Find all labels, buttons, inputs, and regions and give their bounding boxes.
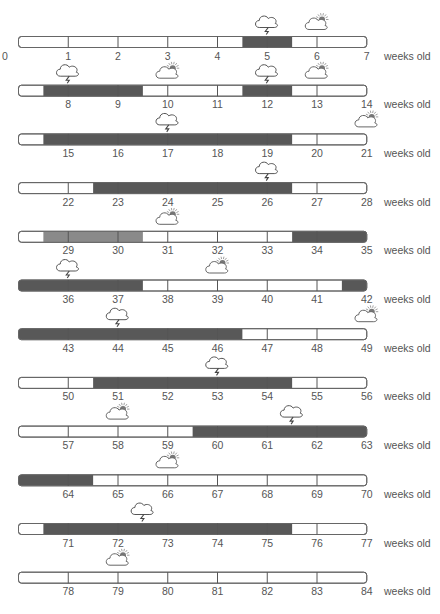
filled-segment-medium <box>43 231 143 242</box>
week-label: 8 <box>65 98 71 110</box>
week-label: 49 <box>361 342 373 354</box>
week-label: 36 <box>62 293 74 305</box>
week-label: 66 <box>162 488 174 500</box>
week-label: 12 <box>261 98 273 110</box>
week-label: 51 <box>112 390 124 402</box>
week-label: 20 <box>311 147 323 159</box>
week-label: 77 <box>361 537 373 549</box>
timeline-row: 64656667686970weeks old <box>19 451 431 499</box>
unit-label: weeks old <box>383 244 431 256</box>
week-label: 14 <box>361 98 373 110</box>
timeline-row: 78798081828384weeks old <box>19 549 431 597</box>
week-label: 67 <box>212 488 224 500</box>
week-label: 21 <box>361 147 373 159</box>
timeline-row: 15161718192021weeks old <box>19 111 431 159</box>
week-label: 1 <box>65 50 71 62</box>
storm-icon <box>57 260 79 278</box>
week-label: 13 <box>311 98 323 110</box>
week-label: 78 <box>62 585 74 597</box>
partly-cloudy-icon <box>305 62 328 78</box>
week-label: 28 <box>361 196 373 208</box>
week-label: 5 <box>264 50 270 62</box>
filled-segment-dark <box>193 426 367 437</box>
week-label: 70 <box>361 488 373 500</box>
week-label: 4 <box>215 50 221 62</box>
unit-label: weeks old <box>383 293 431 305</box>
timeline-row: 71727374757677weeks old <box>19 503 431 548</box>
week-label: 47 <box>261 342 273 354</box>
filled-segment-dark <box>19 329 243 340</box>
week-label: 48 <box>311 342 323 354</box>
storm-icon <box>280 406 302 424</box>
filled-segment-dark <box>43 85 143 96</box>
week-label: 9 <box>115 98 121 110</box>
unit-label: weeks old <box>383 147 431 159</box>
week-label: 10 <box>162 98 174 110</box>
week-label: 75 <box>261 537 273 549</box>
week-label: 33 <box>261 244 273 256</box>
week-label: 45 <box>162 342 174 354</box>
week-label: 23 <box>112 196 124 208</box>
storm-icon <box>57 65 79 83</box>
week-label: 71 <box>62 537 74 549</box>
week-label: 22 <box>62 196 74 208</box>
week-label: 26 <box>261 196 273 208</box>
week-label: 40 <box>261 293 273 305</box>
week-label: 81 <box>212 585 224 597</box>
week-label: 0 <box>2 50 8 62</box>
timeline-row: 891011121314weeks old <box>19 62 431 110</box>
week-label: 42 <box>361 293 373 305</box>
timeline-bar <box>19 37 367 48</box>
week-label: 72 <box>112 537 124 549</box>
storm-icon <box>256 162 278 180</box>
week-label: 37 <box>112 293 124 305</box>
week-label: 50 <box>62 390 74 402</box>
storm-icon <box>256 65 278 83</box>
unit-label: weeks old <box>383 50 431 62</box>
storm-icon <box>131 503 153 521</box>
week-label: 79 <box>112 585 124 597</box>
storm-icon <box>256 16 278 34</box>
timeline-row: 29303132333435weeks old <box>19 208 431 256</box>
filled-segment-dark <box>292 231 367 242</box>
week-label: 25 <box>212 196 224 208</box>
unit-label: weeks old <box>383 390 431 402</box>
week-label: 76 <box>311 537 323 549</box>
unit-label: weeks old <box>383 488 431 500</box>
week-label: 39 <box>212 293 224 305</box>
week-label: 74 <box>212 537 224 549</box>
week-label: 24 <box>162 196 174 208</box>
filled-segment-dark <box>19 475 94 486</box>
week-label: 63 <box>361 439 373 451</box>
unit-label: weeks old <box>383 537 431 549</box>
partly-cloudy-icon <box>156 208 179 224</box>
partly-cloudy-icon <box>106 549 129 565</box>
week-label: 65 <box>112 488 124 500</box>
week-label: 16 <box>112 147 124 159</box>
timeline-row: 57585960616263weeks old <box>19 403 431 451</box>
filled-segment-dark <box>342 280 367 291</box>
week-label: 52 <box>162 390 174 402</box>
storm-icon <box>156 113 178 131</box>
week-label: 41 <box>311 293 323 305</box>
weeks-timeline-chart: 01234567weeks old891011121314weeks old15… <box>0 0 440 614</box>
partly-cloudy-icon <box>305 13 328 29</box>
week-label: 44 <box>112 342 124 354</box>
week-label: 82 <box>261 585 273 597</box>
filled-segment-dark <box>93 377 292 388</box>
week-label: 68 <box>261 488 273 500</box>
partly-cloudy-icon <box>206 257 229 273</box>
filled-segment-dark <box>93 183 292 194</box>
partly-cloudy-icon <box>355 305 378 321</box>
week-label: 2 <box>115 50 121 62</box>
filled-segment-dark <box>19 280 143 291</box>
week-label: 17 <box>162 147 174 159</box>
week-label: 46 <box>212 342 224 354</box>
unit-label: weeks old <box>383 439 431 451</box>
timeline-bar <box>19 572 367 583</box>
week-label: 69 <box>311 488 323 500</box>
timeline-row: 36373839404142weeks old <box>19 257 431 305</box>
week-label: 6 <box>314 50 320 62</box>
timeline-row: 50515253545556weeks old <box>19 357 431 402</box>
partly-cloudy-icon <box>106 403 129 419</box>
